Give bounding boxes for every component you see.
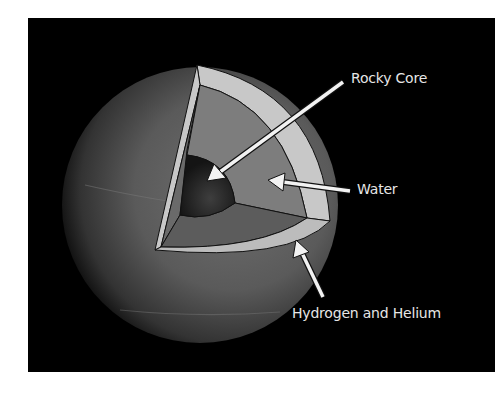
planet-cutaway-diagram — [0, 0, 495, 401]
label-water: Water — [357, 181, 397, 197]
label-hydrogen-helium: Hydrogen and Helium — [292, 305, 441, 321]
label-rocky-core: Rocky Core — [351, 70, 427, 86]
